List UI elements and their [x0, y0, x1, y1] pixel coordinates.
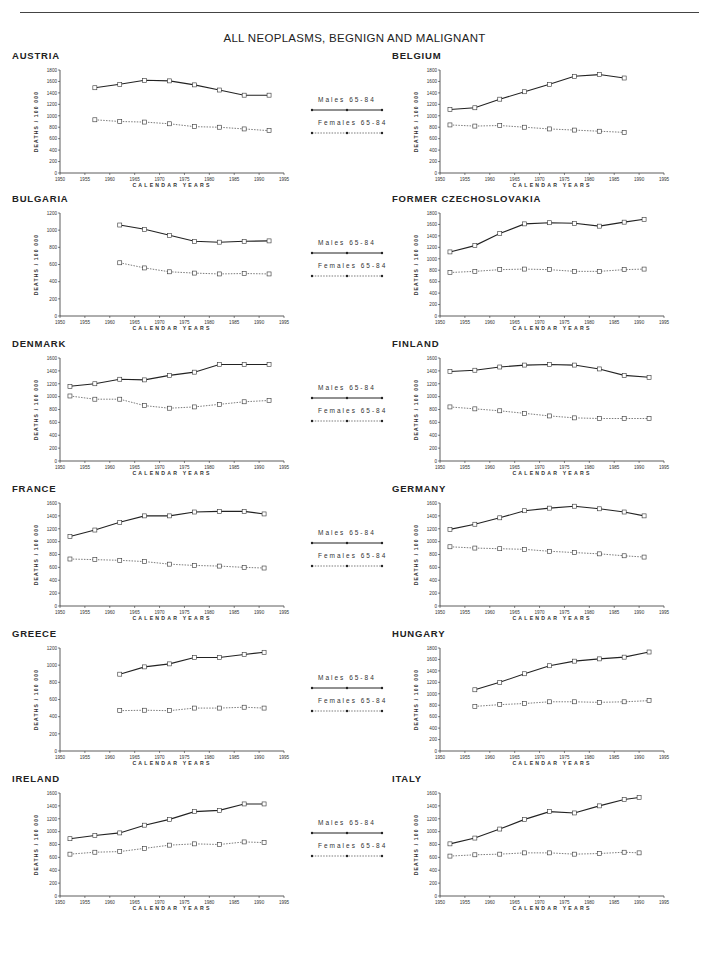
svg-text:1995: 1995 — [279, 900, 290, 905]
svg-text:200: 200 — [49, 446, 57, 451]
legend: Males 65-84Females 65-84 — [310, 239, 390, 289]
svg-text:1800: 1800 — [427, 68, 438, 73]
chart-title: DENMARK — [12, 338, 66, 349]
svg-text:1990: 1990 — [254, 610, 265, 615]
svg-text:800: 800 — [49, 552, 57, 557]
svg-text:800: 800 — [429, 842, 437, 847]
svg-text:600: 600 — [49, 262, 57, 267]
svg-text:1995: 1995 — [659, 465, 670, 470]
svg-text:1955: 1955 — [80, 755, 91, 760]
chart-title: HUNGARY — [392, 628, 445, 639]
svg-text:600: 600 — [429, 855, 437, 860]
header-rule — [20, 12, 699, 13]
svg-text:1950: 1950 — [435, 900, 446, 905]
svg-text:1800: 1800 — [47, 68, 58, 73]
svg-text:200: 200 — [429, 302, 437, 307]
svg-text:DEATHS / 100 000: DEATHS / 100 000 — [413, 524, 419, 586]
svg-text:200: 200 — [49, 297, 57, 302]
svg-text:1985: 1985 — [609, 177, 620, 182]
line-chart: 0200400600800100012001400160019501955196… — [380, 495, 680, 635]
svg-text:CALENDAR YEARS: CALENDAR YEARS — [132, 905, 211, 911]
svg-text:800: 800 — [49, 407, 57, 412]
svg-text:600: 600 — [429, 279, 437, 284]
svg-text:1200: 1200 — [427, 680, 438, 685]
svg-text:800: 800 — [429, 125, 437, 130]
line-chart: 0200400600800100012001400160019501955196… — [380, 785, 680, 925]
svg-text:0: 0 — [434, 171, 437, 176]
svg-text:1995: 1995 — [659, 177, 670, 182]
line-chart: 0200400600800100012001950195519601965197… — [0, 640, 300, 780]
svg-text:DEATHS / 100 000: DEATHS / 100 000 — [413, 814, 419, 876]
svg-text:1990: 1990 — [254, 465, 265, 470]
svg-text:1200: 1200 — [47, 817, 58, 822]
chart-panel-italy: ITALY02004006008001000120014001600195019… — [380, 773, 680, 913]
svg-text:800: 800 — [49, 245, 57, 250]
svg-text:400: 400 — [429, 291, 437, 296]
svg-text:1950: 1950 — [435, 320, 446, 325]
line-chart: 0200400600800100012001400160018001950195… — [380, 62, 680, 202]
svg-text:0: 0 — [54, 604, 57, 609]
svg-text:DEATHS / 100 000: DEATHS / 100 000 — [33, 379, 39, 441]
svg-text:1000: 1000 — [427, 257, 438, 262]
svg-text:1600: 1600 — [427, 356, 438, 361]
svg-text:400: 400 — [49, 714, 57, 719]
svg-text:1955: 1955 — [80, 320, 91, 325]
svg-text:1400: 1400 — [47, 514, 58, 519]
svg-text:1400: 1400 — [47, 91, 58, 96]
legend-males-label: Males 65-84 — [318, 529, 376, 536]
line-chart: 0200400600800100012001400160018001950195… — [0, 62, 300, 202]
svg-text:1800: 1800 — [427, 646, 438, 651]
line-chart: 0200400600800100012001400160019501955196… — [380, 350, 680, 490]
svg-text:1985: 1985 — [229, 320, 240, 325]
svg-text:800: 800 — [429, 703, 437, 708]
svg-text:1000: 1000 — [427, 829, 438, 834]
svg-text:1600: 1600 — [427, 657, 438, 662]
svg-text:CALENDAR YEARS: CALENDAR YEARS — [132, 470, 211, 476]
svg-text:0: 0 — [54, 314, 57, 319]
svg-text:1995: 1995 — [279, 320, 290, 325]
chart-title: AUSTRIA — [12, 50, 60, 61]
svg-text:1600: 1600 — [47, 79, 58, 84]
svg-text:1200: 1200 — [47, 211, 58, 216]
legend-males-label: Males 65-84 — [318, 96, 376, 103]
legend-swatches — [310, 537, 390, 577]
svg-text:200: 200 — [429, 737, 437, 742]
svg-text:CALENDAR YEARS: CALENDAR YEARS — [512, 615, 591, 621]
svg-text:1985: 1985 — [229, 900, 240, 905]
chart-title: FINLAND — [392, 338, 439, 349]
chart-panel-denmark: DENMARK020040060080010001200140016001950… — [0, 338, 300, 478]
line-chart: 0200400600800100012001400160019501955196… — [0, 495, 300, 635]
svg-text:1990: 1990 — [254, 900, 265, 905]
svg-text:1960: 1960 — [485, 465, 496, 470]
svg-text:1400: 1400 — [47, 369, 58, 374]
svg-text:600: 600 — [49, 565, 57, 570]
svg-text:0: 0 — [54, 894, 57, 899]
svg-text:1995: 1995 — [279, 610, 290, 615]
svg-text:1990: 1990 — [254, 177, 265, 182]
svg-text:1000: 1000 — [47, 114, 58, 119]
svg-text:1400: 1400 — [427, 804, 438, 809]
line-chart: 0200400600800100012001400160019501955196… — [0, 350, 300, 490]
svg-text:800: 800 — [429, 552, 437, 557]
svg-text:1955: 1955 — [460, 465, 471, 470]
svg-text:1955: 1955 — [460, 610, 471, 615]
svg-text:400: 400 — [429, 433, 437, 438]
svg-text:1400: 1400 — [47, 804, 58, 809]
chart-panel-hungary: HUNGARY020040060080010001200140016001800… — [380, 628, 680, 768]
chart-title: FORMER CZECHOSLOVAKIA — [392, 193, 541, 204]
chart-title: IRELAND — [12, 773, 60, 784]
svg-text:1960: 1960 — [105, 755, 116, 760]
svg-text:1600: 1600 — [427, 222, 438, 227]
svg-text:1985: 1985 — [609, 755, 620, 760]
svg-text:1985: 1985 — [229, 610, 240, 615]
svg-text:CALENDAR YEARS: CALENDAR YEARS — [512, 760, 591, 766]
chart-panel-former-czechoslovakia: FORMER CZECHOSLOVAKIA0200400600800100012… — [380, 193, 680, 333]
svg-text:1985: 1985 — [609, 610, 620, 615]
svg-text:1990: 1990 — [634, 755, 645, 760]
svg-text:600: 600 — [49, 697, 57, 702]
svg-text:1950: 1950 — [55, 177, 66, 182]
svg-text:DEATHS / 100 000: DEATHS / 100 000 — [33, 524, 39, 586]
svg-text:1955: 1955 — [80, 900, 91, 905]
svg-text:1990: 1990 — [634, 900, 645, 905]
svg-text:1950: 1950 — [55, 320, 66, 325]
